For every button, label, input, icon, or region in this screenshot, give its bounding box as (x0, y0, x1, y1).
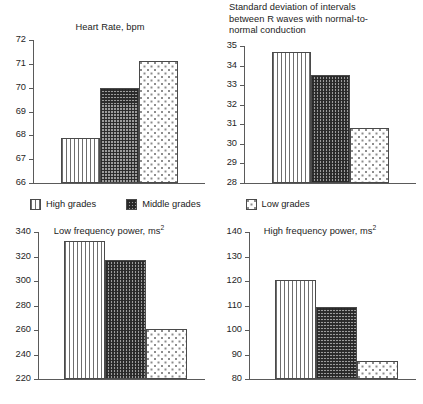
bar-middle-grades (316, 307, 357, 379)
y-axis-tick-label: 340 (15, 227, 31, 236)
bar-high-grades (61, 138, 100, 183)
bar-low-grades (139, 61, 178, 183)
y-axis-tick (245, 281, 249, 282)
legend-item-low-grades[interactable]: Low grades (246, 199, 310, 210)
y-axis-tick-label: 69 (16, 107, 26, 116)
bar-middle-grades (105, 260, 146, 379)
y-axis-tick (240, 163, 244, 164)
y-axis-tick (240, 183, 244, 184)
bar-high-grades (64, 241, 105, 379)
y-axis-tick-label: 30 (227, 139, 237, 148)
legend: High grades Middle grades Low grades (0, 197, 423, 211)
y-axis-tick (240, 85, 244, 86)
y-axis-tick-label: 68 (16, 131, 26, 140)
plot-area-sdnn: 2829303132333435 (244, 46, 416, 184)
y-axis-tick-label: 28 (227, 178, 237, 187)
figure-panel-grid: Heart Rate, bpm 66676869707172 Standard … (0, 0, 423, 404)
legend-label-high-grades: High grades (46, 199, 96, 210)
y-axis-line (249, 232, 250, 380)
x-axis-line (244, 183, 416, 184)
y-axis-tick (245, 330, 249, 331)
y-axis-tick (34, 306, 38, 307)
plot-area-high-frequency-power: 8090100110120130140 (249, 232, 416, 380)
y-axis-tick (245, 306, 249, 307)
y-axis-tick-label: 140 (226, 227, 242, 236)
y-axis-tick-label: 260 (15, 325, 31, 334)
chart-panel-low-frequency-power: Low frequency power, ms2 220240260280300… (0, 214, 212, 404)
chart-title-heart-rate: Heart Rate, bpm (0, 22, 212, 34)
y-axis-tick-label: 130 (226, 252, 242, 261)
y-axis-tick-label: 70 (16, 83, 26, 92)
y-axis-tick-label: 120 (226, 276, 242, 285)
y-axis-tick (29, 183, 33, 184)
y-axis-tick-label: 34 (227, 61, 237, 70)
chart-panel-high-frequency-power: High frequency power, ms2 80901001101201… (211, 214, 423, 404)
y-axis-tick-label: 320 (15, 252, 31, 261)
y-axis-tick (29, 159, 33, 160)
legend-swatch-low-grades-icon (246, 199, 257, 210)
y-axis-tick (245, 232, 249, 233)
y-axis-tick (240, 105, 244, 106)
plot-area-low-frequency-power: 220240260280300320340 (38, 232, 205, 380)
y-axis-tick (34, 379, 38, 380)
legend-item-middle-grades[interactable]: Middle grades (126, 199, 200, 210)
y-axis-tick (29, 88, 33, 89)
legend-label-middle-grades: Middle grades (142, 199, 200, 210)
plot-area-heart-rate: 66676869707172 (33, 40, 205, 184)
y-axis-tick (29, 112, 33, 113)
chart-title-low-frequency-power-superscript: 2 (160, 223, 164, 230)
y-axis-tick (34, 281, 38, 282)
y-axis-tick-label: 31 (227, 120, 237, 129)
y-axis-line (38, 232, 39, 380)
y-axis-tick (34, 232, 38, 233)
chart-title-high-frequency-power-superscript: 2 (372, 223, 376, 230)
y-axis-tick-label: 240 (15, 350, 31, 359)
bar-low-grades (146, 329, 187, 379)
y-axis-tick-label: 280 (15, 301, 31, 310)
y-axis-tick (245, 355, 249, 356)
y-axis-tick (240, 144, 244, 145)
y-axis-tick-label: 110 (227, 301, 242, 310)
x-axis-line (38, 379, 205, 380)
y-axis-tick (245, 257, 249, 258)
y-axis-line (244, 46, 245, 184)
y-axis-tick-label: 33 (227, 80, 237, 89)
y-axis-tick (34, 257, 38, 258)
legend-label-low-grades: Low grades (262, 199, 310, 210)
bar-middle-grades (311, 75, 350, 183)
chart-title-sdnn: Standard deviation of intervals between … (211, 2, 407, 37)
y-axis-tick (245, 379, 249, 380)
y-axis-tick-label: 220 (15, 374, 31, 383)
bar-high-grades (272, 52, 311, 183)
y-axis-tick-label: 67 (16, 155, 26, 164)
y-axis-tick (240, 124, 244, 125)
y-axis-tick (29, 135, 33, 136)
chart-panel-sdnn: Standard deviation of intervals between … (211, 2, 423, 194)
y-axis-tick (240, 46, 244, 47)
y-axis-tick (29, 40, 33, 41)
y-axis-tick (34, 355, 38, 356)
y-axis-tick (240, 66, 244, 67)
y-axis-line (33, 40, 34, 184)
legend-swatch-high-grades-icon (30, 199, 41, 210)
y-axis-tick-label: 35 (227, 41, 237, 50)
y-axis-tick (29, 64, 33, 65)
y-axis-tick-label: 90 (232, 350, 242, 359)
bar-high-grades (275, 280, 316, 379)
bar-low-grades (350, 128, 389, 183)
y-axis-tick-label: 66 (16, 178, 26, 187)
chart-panel-heart-rate: Heart Rate, bpm 66676869707172 (0, 22, 212, 194)
y-axis-tick-label: 72 (16, 35, 26, 44)
x-axis-line (33, 183, 205, 184)
y-axis-tick-label: 80 (232, 374, 242, 383)
y-axis-tick (34, 330, 38, 331)
legend-item-high-grades[interactable]: High grades (30, 199, 96, 210)
bar-low-grades (357, 361, 398, 379)
y-axis-tick-label: 29 (227, 159, 237, 168)
x-axis-line (249, 379, 416, 380)
bar-middle-grades (100, 88, 139, 183)
y-axis-tick-label: 300 (15, 276, 31, 285)
legend-swatch-middle-grades-icon (126, 199, 137, 210)
y-axis-tick-label: 100 (226, 325, 242, 334)
y-axis-tick-label: 71 (16, 59, 26, 68)
